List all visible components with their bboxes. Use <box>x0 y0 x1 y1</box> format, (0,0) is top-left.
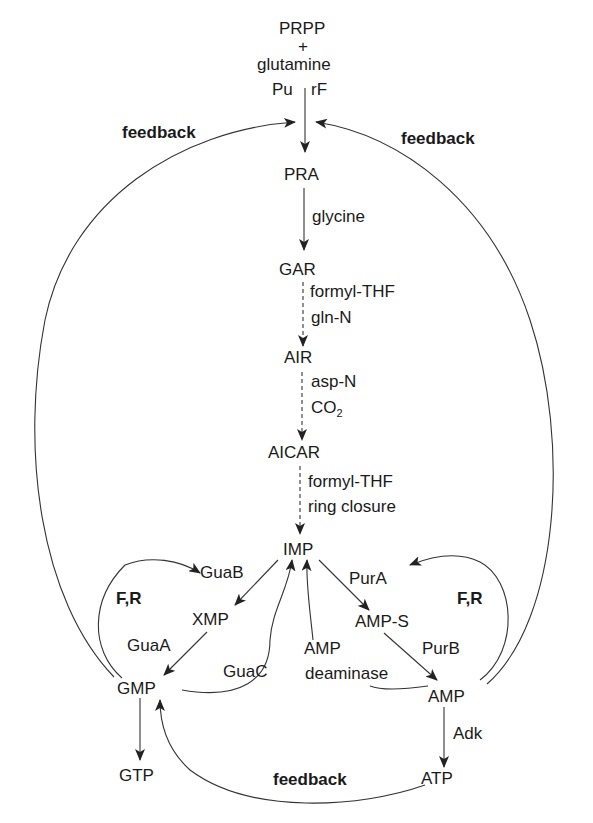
enzyme-adk: Adk <box>453 725 482 743</box>
arrow-ampdeaminase-to-imp <box>370 686 428 689</box>
node-gmp: GMP <box>117 680 156 698</box>
enzyme-pura: PurA <box>349 570 387 588</box>
enzyme-guac: GuaC <box>223 663 267 681</box>
arrow-fr-right-loop <box>410 556 508 680</box>
node-pra: PRA <box>284 166 319 184</box>
regulation-fr-right: F,R <box>457 590 483 608</box>
label-formyl-thf-2: formyl-THF <box>308 473 393 491</box>
pathway-arrows <box>0 0 593 823</box>
label-asp-n: asp-N <box>311 373 356 391</box>
label-gln-n: gln-N <box>311 309 352 327</box>
arrow-fr-left-loop <box>98 560 200 678</box>
label-co2: CO2 <box>311 399 343 417</box>
arrow-feedback-left <box>35 122 295 677</box>
enzyme-guab: GuaB <box>200 564 243 582</box>
label-ring-closure: ring closure <box>308 498 396 516</box>
enzyme-purb: PurB <box>422 640 460 658</box>
label-pu: Pu <box>272 81 293 99</box>
label-formyl-thf-1: formyl-THF <box>310 283 395 301</box>
label-glycine: glycine <box>312 208 365 226</box>
node-gar: GAR <box>279 261 316 279</box>
node-prpp: PRPP <box>279 20 325 38</box>
node-atp: ATP <box>421 770 453 788</box>
feedback-label-right: feedback <box>401 130 475 148</box>
node-glutamine: glutamine <box>257 56 331 74</box>
feedback-label-bottom: feedback <box>273 771 347 789</box>
node-imp: IMP <box>283 541 313 559</box>
label-rf: rF <box>311 81 327 99</box>
node-amp-s: AMP-S <box>355 613 409 631</box>
node-air: AIR <box>284 349 312 367</box>
node-xmp: XMP <box>192 611 229 629</box>
label-co2-base: CO <box>311 398 337 417</box>
feedback-label-left: feedback <box>122 124 196 142</box>
label-co2-subscript: 2 <box>337 407 343 419</box>
node-gtp: GTP <box>119 767 154 785</box>
node-amp: AMP <box>428 688 465 706</box>
plus-sign: + <box>298 38 308 56</box>
node-aicar: AICAR <box>268 444 320 462</box>
enzyme-amp-deaminase-1: AMP <box>304 640 341 658</box>
arrow-ampdeaminase-up <box>307 560 313 640</box>
enzyme-amp-deaminase-2: deaminase <box>305 665 388 683</box>
regulation-fr-left: F,R <box>116 590 142 608</box>
enzyme-guaa: GuaA <box>127 637 170 655</box>
